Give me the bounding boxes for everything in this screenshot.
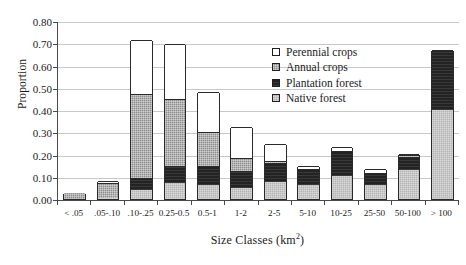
legend-item: Perennial crops — [272, 44, 396, 60]
x-tick-mark — [157, 200, 158, 205]
x-tick-mark — [224, 200, 225, 205]
bar-segment-perennial — [131, 40, 152, 95]
legend-swatch-plantation — [272, 79, 280, 87]
x-tick-mark — [57, 200, 58, 205]
legend-item: Native forest — [272, 91, 396, 107]
chart-figure: Proportion 0.000.100.200.300.400.500.600… — [0, 0, 466, 265]
x-tick-label: 0.5-1 — [198, 207, 217, 219]
x-axis-title: Size Classes (km2) — [57, 232, 458, 248]
x-tick-label: 2-5 — [268, 207, 280, 219]
x-tick-label: > 100 — [431, 207, 452, 219]
x-tick-mark — [458, 200, 459, 205]
bar-slot — [192, 22, 225, 200]
bar-segment-perennial — [365, 169, 386, 173]
x-tick-mark — [124, 200, 125, 205]
x-tick-mark — [324, 200, 325, 205]
bar-slot — [158, 22, 191, 200]
bar-segment-perennial — [298, 166, 319, 169]
bar-segment-plantation — [198, 166, 219, 185]
bar-segment-plantation — [265, 163, 286, 182]
legend-swatch-native — [272, 94, 280, 102]
y-tick-label: 0.60 — [20, 62, 52, 73]
bar-segment-native — [298, 185, 319, 199]
y-axis-tick-labels: 0.000.100.200.300.400.500.600.700.80 — [20, 14, 52, 206]
bar-slot — [392, 22, 425, 200]
x-tick-mark — [425, 200, 426, 205]
stacked-bar[interactable] — [331, 148, 354, 200]
bar-segment-native — [98, 198, 119, 199]
x-tick-label: 50-100 — [395, 207, 421, 219]
bar-segment-annual — [231, 158, 252, 170]
legend: Perennial cropsAnnual cropsPlantation fo… — [272, 44, 396, 106]
x-tick-mark — [90, 200, 91, 205]
stacked-bar[interactable] — [230, 128, 253, 200]
bar-segment-native — [365, 185, 386, 199]
bar-segment-annual — [64, 193, 85, 199]
bar-segment-native — [231, 188, 252, 199]
legend-label: Native forest — [286, 92, 346, 104]
bar-segment-perennial — [332, 147, 353, 151]
bar-slot — [91, 22, 124, 200]
stacked-bar[interactable] — [431, 51, 454, 200]
legend-label: Perennial crops — [286, 46, 357, 58]
bar-segment-native — [131, 190, 152, 199]
bar-segment-plantation — [432, 50, 453, 110]
x-tick-mark — [391, 200, 392, 205]
plot-area — [57, 22, 459, 200]
bar-segment-native — [265, 182, 286, 199]
legend-label: Plantation forest — [286, 77, 362, 89]
bar-segment-perennial — [198, 92, 219, 132]
y-tick-label: 0.30 — [20, 128, 52, 139]
bar-segment-annual — [165, 99, 186, 166]
bar-slot — [426, 22, 459, 200]
bar-segment-plantation — [131, 178, 152, 190]
stacked-bar[interactable] — [398, 155, 421, 200]
bar-segment-perennial — [399, 154, 420, 155]
bar-segment-perennial — [231, 127, 252, 158]
stacked-bar[interactable] — [364, 170, 387, 200]
legend-item: Plantation forest — [272, 75, 396, 91]
bar-segment-annual — [265, 161, 286, 164]
x-tick-label: 25-50 — [364, 207, 385, 219]
stacked-bar[interactable] — [164, 45, 187, 200]
x-tick-label: < .05 — [64, 207, 83, 219]
x-tick-label: 5-10 — [299, 207, 316, 219]
bar-segment-native — [165, 183, 186, 199]
stacked-bar[interactable] — [264, 145, 287, 200]
x-axis-tick-labels: < .05.05-.10.10-.250.25-0.50.5-11-22-55-… — [57, 207, 458, 223]
bar-segment-perennial — [165, 44, 186, 99]
x-tick-label: .10-.25 — [128, 207, 154, 219]
bar-segment-native — [399, 170, 420, 199]
legend-item: Annual crops — [272, 60, 396, 76]
stacked-bar[interactable] — [130, 41, 153, 200]
stacked-bar[interactable] — [297, 167, 320, 200]
x-axis-title-base: Size Classes (km — [211, 233, 296, 247]
bar-segment-annual — [131, 94, 152, 177]
y-tick-label: 0.20 — [20, 151, 52, 162]
y-tick-label: 0.40 — [20, 106, 52, 117]
bar-segment-plantation — [165, 166, 186, 183]
x-tick-mark — [291, 200, 292, 205]
x-axis-tick-marks — [57, 200, 458, 205]
bar-segment-perennial — [98, 181, 119, 183]
y-tick-label: 0.00 — [20, 195, 52, 206]
bar-segment-plantation — [231, 171, 252, 189]
x-tick-mark — [358, 200, 359, 205]
legend-label: Annual crops — [286, 61, 348, 73]
bar-slot — [58, 22, 91, 200]
y-tick-label: 0.10 — [20, 173, 52, 184]
x-tick-label: 1-2 — [235, 207, 247, 219]
legend-swatch-annual — [272, 63, 280, 71]
x-axis-title-close: ) — [300, 233, 304, 247]
bar-segment-native — [432, 110, 453, 199]
bar-segment-perennial — [265, 144, 286, 161]
bar-segment-native — [198, 185, 219, 199]
stacked-bar[interactable] — [97, 182, 120, 200]
stacked-bar[interactable] — [197, 93, 220, 200]
legend-swatch-perennial — [272, 48, 280, 56]
bar-slot — [125, 22, 158, 200]
x-tick-mark — [258, 200, 259, 205]
y-tick-label: 0.70 — [20, 39, 52, 50]
bar-segment-plantation — [365, 173, 386, 184]
bar-segment-plantation — [298, 169, 319, 185]
